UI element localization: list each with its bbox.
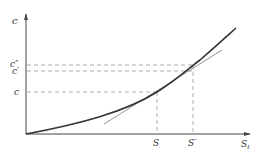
y-axis-label: c [12, 15, 18, 26]
tangent-line [104, 50, 222, 124]
label-c: c [14, 87, 19, 97]
label-c-prime: c′ [12, 66, 19, 76]
cost-curve [26, 28, 236, 134]
label-S-prime: S′ [188, 138, 196, 148]
label-S: S [153, 138, 159, 148]
x-axis-label-subscript: t [247, 143, 250, 150]
x-axis-label: St [241, 139, 250, 150]
dashed-guides [27, 65, 193, 134]
cost-curve-diagram: c c″ c′ c S S′ St [0, 0, 259, 156]
